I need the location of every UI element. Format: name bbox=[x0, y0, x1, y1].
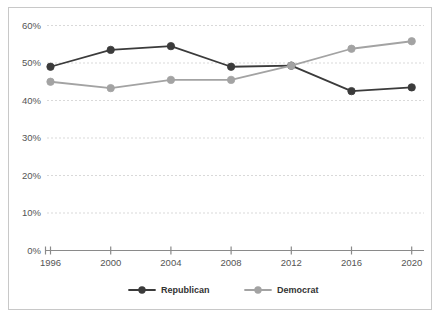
x-axis-tick-label: 2004 bbox=[160, 257, 181, 268]
data-point-marker bbox=[288, 62, 295, 69]
y-axis-tick-label: 40% bbox=[22, 95, 42, 106]
data-point-marker bbox=[167, 42, 174, 49]
y-axis-tick-label: 60% bbox=[22, 20, 42, 31]
x-axis-tick-label: 2012 bbox=[281, 257, 302, 268]
data-point-marker bbox=[47, 63, 54, 70]
chart-legend: RepublicanDemocrat bbox=[129, 285, 319, 295]
data-point-marker bbox=[408, 38, 415, 45]
legend-label: Republican bbox=[161, 285, 210, 295]
line-chart: 0%10%20%30%40%50%60% 1996200020042008201… bbox=[0, 0, 443, 319]
x-axis-tick-label: 2008 bbox=[221, 257, 242, 268]
y-axis-tick-label: 20% bbox=[22, 170, 42, 181]
x-axis bbox=[45, 247, 424, 255]
y-axis-tick-labels: 0%10%20%30%40%50%60% bbox=[22, 20, 42, 256]
data-point-marker bbox=[408, 84, 415, 91]
x-axis-tick-label: 1996 bbox=[40, 257, 61, 268]
chart-canvas: 0%10%20%30%40%50%60% 1996200020042008201… bbox=[0, 0, 443, 319]
data-point-marker bbox=[348, 45, 355, 52]
data-point-marker bbox=[348, 87, 355, 94]
x-axis-tick-label: 2016 bbox=[341, 257, 362, 268]
data-point-marker bbox=[47, 78, 54, 85]
data-point-marker bbox=[227, 76, 234, 83]
y-axis-tick-label: 30% bbox=[22, 132, 42, 143]
data-point-marker bbox=[107, 46, 114, 53]
x-axis-tick-labels: 1996200020042008201220162020 bbox=[40, 257, 422, 268]
legend-marker-dot bbox=[138, 286, 145, 293]
data-point-marker bbox=[227, 63, 234, 70]
data-point-marker bbox=[167, 76, 174, 83]
legend-label: Democrat bbox=[277, 285, 319, 295]
y-axis-tick-label: 10% bbox=[22, 207, 42, 218]
y-axis-tick-label: 50% bbox=[22, 57, 42, 68]
x-axis-tick-label: 2020 bbox=[401, 257, 422, 268]
legend-item-democrat[interactable]: Democrat bbox=[245, 285, 319, 295]
legend-item-republican[interactable]: Republican bbox=[129, 285, 210, 295]
x-axis-tick-label: 2000 bbox=[100, 257, 121, 268]
data-series-group bbox=[47, 38, 416, 95]
y-axis-tick-label: 0% bbox=[27, 245, 41, 256]
gridlines bbox=[47, 26, 424, 214]
data-point-marker bbox=[107, 84, 114, 91]
legend-marker-dot bbox=[254, 286, 261, 293]
